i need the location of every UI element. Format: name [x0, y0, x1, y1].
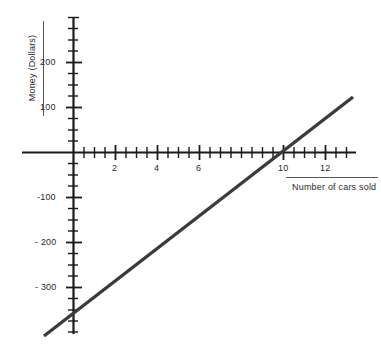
x-tick-label-2: 2 — [112, 163, 117, 173]
y-tick-label-neg300: - 300 — [35, 282, 57, 292]
x-axis-title: Number of cars sold — [292, 182, 376, 192]
x-tick-label-10: 10 — [278, 163, 288, 173]
y-axis-title: Money (Dollars) — [27, 35, 37, 102]
chart-plot-area: Money (Dollars) — [0, 0, 381, 356]
x-tick-label-12: 12 — [320, 163, 330, 173]
chart-container: Money (Dollars) 200 100 -100 - 200 - 300… — [0, 0, 381, 356]
data-series-line — [44, 97, 353, 336]
x-tick-label-6: 6 — [196, 163, 201, 173]
y-tick-label-200: 200 — [40, 57, 56, 67]
y-tick-label-100: 100 — [40, 102, 56, 112]
x-tick-label-4: 4 — [154, 163, 159, 173]
y-tick-label-neg200: - 200 — [35, 237, 57, 247]
y-tick-label-neg100: -100 — [37, 192, 56, 202]
